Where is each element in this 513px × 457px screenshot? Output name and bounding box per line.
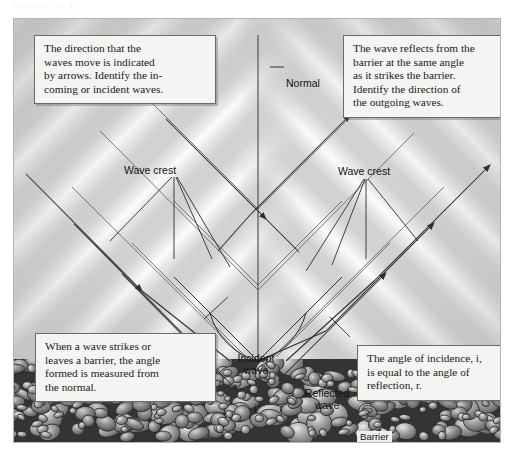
callout-line: is equal to the angle of [367, 366, 501, 380]
callout-line: by arrows. Identify the in- [44, 69, 207, 83]
label-wave-crest-right: Wave crest [338, 165, 390, 177]
label-angle-i: i [254, 402, 256, 414]
callout-line: as it strikes the barrier. [353, 69, 501, 83]
callout-reflection-intro[interactable]: The wave reflects from the barrier at th… [343, 35, 501, 118]
incident-crest-outlines [72, 91, 258, 372]
callout-line: coming or incident waves. [44, 83, 207, 97]
callout-line: barrier at the same angle [353, 56, 501, 70]
label-wave-crest-left: Wave crest [124, 164, 176, 176]
label-reflected-wave: Reflected wave [297, 387, 357, 411]
wave-crest-left-leaders [110, 177, 230, 267]
callout-line: Identify the direction of [353, 83, 501, 97]
callout-line: the outgoing waves. [353, 96, 501, 110]
callout-line: The direction that the [44, 42, 207, 56]
wave-reflection-figure: The direction that the waves move is ind… [13, 18, 501, 443]
label-barrier: Barrier [357, 431, 392, 442]
callout-normal-angle[interactable]: When a wave strikes or leaves a barrier,… [35, 333, 216, 402]
callout-line: the normal. [45, 381, 207, 395]
label-normal: Normal [286, 77, 320, 89]
callout-incident-intro[interactable]: The direction that the waves move is ind… [34, 35, 216, 104]
callout-angle-equality[interactable]: The angle of incidence, i, is equal to t… [357, 345, 501, 401]
label-incident-wave: Incident wave [228, 352, 284, 376]
reflected-ray-tails [218, 215, 374, 361]
callout-line: The angle of incidence, i, [367, 352, 501, 366]
figure-caption: FIGURE 17-12 [13, 2, 80, 11]
callout-line: waves move is indicated [44, 56, 207, 70]
callout-line: reflection, r. [367, 379, 501, 393]
callout-line: leaves a barrier, the angle [45, 354, 207, 368]
callout-line: The wave reflects from the [353, 42, 501, 56]
label-angle-r: r [280, 402, 284, 414]
reflected-rays [250, 115, 490, 381]
callout-line: When a wave strikes or [45, 340, 207, 354]
callout-line: formed is measured from [45, 367, 207, 381]
reflected-crest-outlines [258, 91, 444, 372]
